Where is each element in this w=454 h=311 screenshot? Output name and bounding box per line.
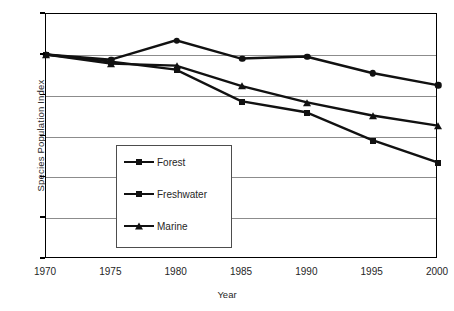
legend-swatch-marine xyxy=(124,220,154,232)
legend-item-marine: Marine xyxy=(124,219,188,233)
data-point-marine xyxy=(369,112,377,119)
data-point-forest xyxy=(435,160,441,166)
data-point-freshwater xyxy=(304,54,311,61)
data-point-freshwater xyxy=(173,37,180,44)
x-tick-label: 1980 xyxy=(151,266,201,277)
species-population-index-chart: Species Population Index Forest Freshwat… xyxy=(0,0,454,311)
data-point-forest xyxy=(239,99,245,105)
data-point-marine xyxy=(434,122,442,129)
data-point-freshwater xyxy=(435,82,442,89)
y-tick-mark xyxy=(40,257,45,258)
x-tick-label: 1975 xyxy=(85,266,135,277)
data-point-marine xyxy=(173,62,181,69)
x-tick-label: 1970 xyxy=(20,266,70,277)
legend-item-forest: Forest xyxy=(124,155,185,169)
y-tick-mark xyxy=(40,94,45,95)
x-tick-label: 1985 xyxy=(216,266,266,277)
x-tick-label: 2000 xyxy=(412,266,454,277)
data-point-forest xyxy=(304,110,310,116)
y-tick-mark xyxy=(40,12,45,13)
y-tick-mark xyxy=(40,135,45,136)
x-tick-label: 1995 xyxy=(347,266,397,277)
legend-swatch-freshwater xyxy=(124,188,154,200)
data-point-marine xyxy=(107,60,115,67)
data-point-marine xyxy=(303,99,311,106)
x-tick-label: 1990 xyxy=(281,266,331,277)
data-point-freshwater xyxy=(369,70,376,77)
data-point-marine xyxy=(238,83,246,90)
legend-label-freshwater: Freshwater xyxy=(157,189,207,200)
legend-item-freshwater: Freshwater xyxy=(124,187,207,201)
series-line-marine xyxy=(46,55,436,126)
legend-label-forest: Forest xyxy=(157,157,185,168)
data-point-forest xyxy=(370,138,376,144)
y-tick-mark xyxy=(40,176,45,177)
y-tick-mark xyxy=(40,53,45,54)
plot-area: Forest Freshwater Marine xyxy=(45,13,437,258)
legend-swatch-forest xyxy=(124,156,154,168)
series-lines xyxy=(46,14,436,257)
legend: Forest Freshwater Marine xyxy=(116,145,232,248)
data-point-freshwater xyxy=(239,56,246,63)
y-tick-mark xyxy=(40,216,45,217)
legend-label-marine: Marine xyxy=(157,221,188,232)
x-axis-title: Year xyxy=(0,289,454,300)
series-line-forest xyxy=(46,55,436,162)
